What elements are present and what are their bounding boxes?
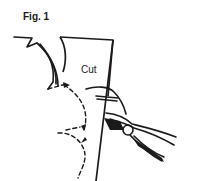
cut-annotation: Cut bbox=[81, 64, 97, 75]
torn-piece bbox=[14, 37, 58, 89]
sheet bbox=[60, 37, 113, 181]
dashed-motion-arrows bbox=[48, 84, 86, 178]
diagram-illustration bbox=[0, 0, 197, 181]
